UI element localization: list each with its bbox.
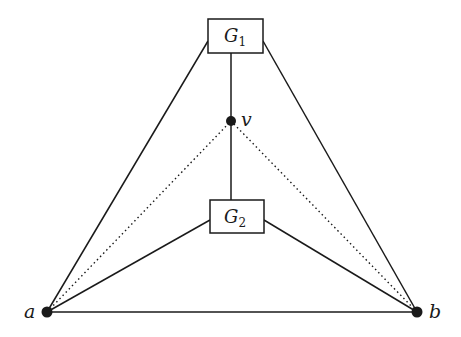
graph-diagram: G1 G2 a b v xyxy=(0,0,461,337)
edge-a-g1 xyxy=(47,41,208,312)
vertex-a-label: a xyxy=(24,300,35,322)
vertex-b-label: b xyxy=(429,300,441,322)
box-g2-label: G xyxy=(224,206,238,227)
vertex-b xyxy=(412,307,423,318)
box-g2-subscript: 2 xyxy=(238,216,246,230)
vertex-a xyxy=(42,307,53,318)
edge-a-g2 xyxy=(47,220,210,312)
vertex-v xyxy=(226,116,236,126)
box-g1-subscript: 1 xyxy=(238,35,246,49)
box-g2: G2 xyxy=(210,200,264,233)
box-g1-label: G xyxy=(224,25,238,46)
edge-b-g1 xyxy=(263,41,417,312)
box-g1: G1 xyxy=(208,19,263,53)
vertex-v-label: v xyxy=(241,108,252,130)
edge-a-v-dotted xyxy=(47,121,231,312)
